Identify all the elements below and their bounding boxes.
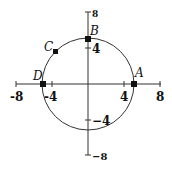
y-label--8: −8 (92, 151, 107, 162)
x-label-8: 8 (156, 90, 164, 104)
point-a-marker (131, 81, 137, 87)
x-label--4: -4 (44, 90, 57, 104)
point-d-label: D (32, 69, 43, 83)
y-label-8: 8 (92, 9, 98, 19)
coordinate-plane-diagram: -8 -4 4 8 8 4 −4 −8 A B C D (0, 0, 172, 169)
y-label--4: −4 (92, 114, 110, 128)
y-label-4: 4 (92, 42, 100, 56)
point-c-label: C (44, 40, 53, 54)
point-b-label: B (89, 24, 99, 38)
point-a-label: A (134, 66, 144, 80)
point-c-marker (53, 49, 58, 54)
x-label-4: 4 (120, 90, 128, 104)
x-label--8: -8 (10, 90, 23, 104)
